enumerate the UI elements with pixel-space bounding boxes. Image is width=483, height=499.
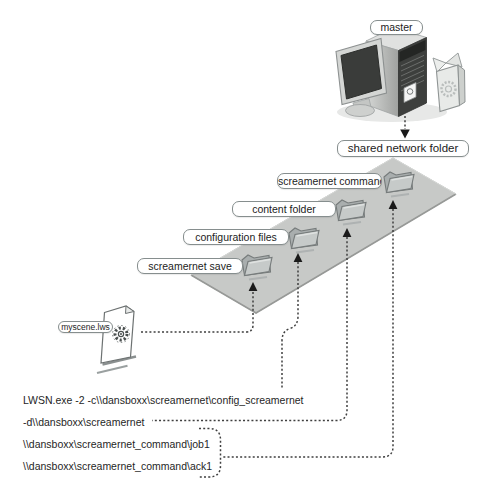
folder-label-content-folder: content folder	[232, 201, 336, 217]
command-line-3: \\dansboxx\screamernet_command\job1	[23, 438, 210, 450]
command-line-1: LWSN.exe -2 -c\\dansboxx\screamernet\con…	[23, 394, 304, 406]
folder-label-screamernet-command: screamernet command	[277, 173, 382, 189]
command-line-4: \\dansboxx\screamernet_command\ack1	[23, 460, 212, 472]
folder-label-text: screamernet save	[148, 260, 231, 272]
folder-label-text: content folder	[252, 203, 316, 215]
scene-file-icon	[97, 306, 136, 373]
shared-network-folder-label-text: shared network folder	[348, 142, 459, 154]
master-computer-icon	[336, 28, 465, 139]
master-label-text: master	[380, 21, 412, 33]
folder-label-configuration-files: configuration files	[183, 229, 289, 245]
folder-label-text: configuration files	[195, 231, 277, 243]
folder-label-text: screamernet command	[278, 175, 382, 187]
screamernet-diagram: master shared network folder screamernet…	[0, 0, 483, 499]
arrow-down-icon	[400, 130, 410, 139]
folder-label-screamernet-save: screamernet save	[137, 258, 243, 274]
master-label: master	[370, 20, 423, 35]
scene-file-label: myscene.lws	[58, 321, 113, 333]
shared-network-folder-label: shared network folder	[337, 140, 469, 157]
command-line-2: -d\\dansboxx\screamernet	[23, 416, 144, 428]
software-box-icon	[433, 53, 465, 112]
scene-file-label-text: myscene.lws	[61, 322, 110, 332]
